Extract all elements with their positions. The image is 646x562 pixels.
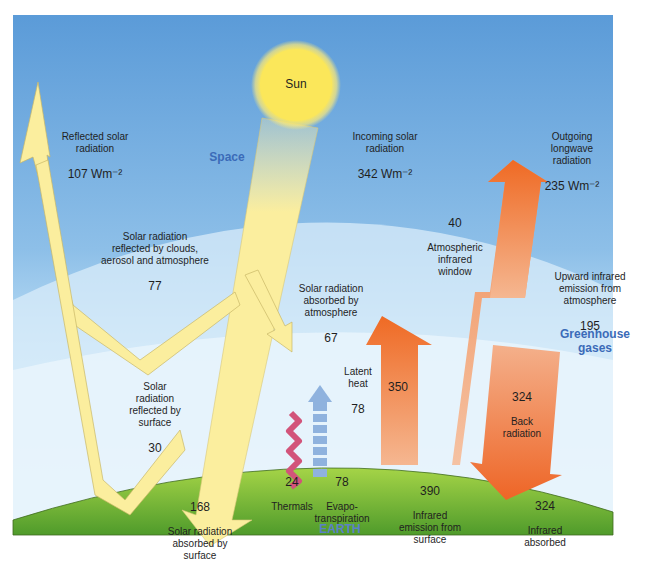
reflected-clouds-value: 77 bbox=[148, 279, 161, 293]
reflected-clouds-label: Solar radiation reflected by clouds, aer… bbox=[95, 219, 215, 293]
outgoing-longwave-label: Outgoing longwave radiation 235 Wm⁻² bbox=[532, 119, 612, 193]
reflected-solar-text: Reflected solar radiation bbox=[62, 131, 129, 154]
back-radiation-label: 324 Back radiation bbox=[487, 378, 557, 440]
ir-surface-text: Infrared emission from surface bbox=[399, 510, 461, 545]
upward-ir-atmosphere-label: Upward infrared emission from atmosphere… bbox=[540, 259, 640, 333]
region-space: Space bbox=[197, 151, 257, 163]
back-radiation-value: 324 bbox=[512, 390, 532, 404]
latent-heat-text: Latent heat bbox=[344, 366, 372, 389]
thermals-value: 24 bbox=[285, 475, 298, 489]
reflected-surface-text: Solar radiation reflected by surface bbox=[129, 381, 181, 428]
upward-ir-atmosphere-text: Upward infrared emission from atmosphere bbox=[554, 271, 625, 306]
ir-absorbed-value: 324 bbox=[535, 499, 555, 513]
latent-heat-label: Latent heat 78 bbox=[333, 354, 383, 416]
ir-absorbed-label: 324 Infrared absorbed bbox=[510, 487, 580, 549]
reflected-surface-label: Solar radiation reflected by surface 30 bbox=[115, 369, 195, 455]
outgoing-longwave-text: Outgoing longwave radiation bbox=[551, 131, 593, 166]
reflected-surface-value: 30 bbox=[148, 441, 161, 455]
absorbed-surface-label: 168 Solar radiation absorbed by surface bbox=[150, 488, 250, 562]
incoming-solar-label: Incoming solar radiation 342 Wm⁻² bbox=[340, 119, 430, 181]
latent-heat-value: 78 bbox=[351, 402, 364, 416]
atmospheric-window-label: 40 Atmospheric infrared window bbox=[415, 204, 495, 278]
ir-surface-value: 390 bbox=[420, 484, 440, 498]
atmospheric-window-value: 40 bbox=[448, 216, 461, 230]
reflected-solar-value: 107 Wm⁻² bbox=[68, 167, 123, 181]
absorbed-atmosphere-label: Solar radiation absorbed by atmosphere 6… bbox=[281, 271, 381, 345]
back-radiation-text: Back radiation bbox=[503, 416, 541, 439]
evapotranspiration-label: 78 Evapo- transpiration bbox=[302, 463, 382, 525]
absorbed-surface-value: 168 bbox=[190, 500, 210, 514]
absorbed-atmosphere-value: 67 bbox=[324, 331, 337, 345]
incoming-solar-value: 342 Wm⁻² bbox=[358, 167, 413, 181]
incoming-solar-text: Incoming solar radiation bbox=[352, 131, 417, 154]
reflected-solar-label: Reflected solar radiation 107 Wm⁻² bbox=[50, 119, 140, 181]
outgoing-longwave-value: 235 Wm⁻² bbox=[545, 179, 600, 193]
evapotranspiration-text: Evapo- transpiration bbox=[314, 501, 369, 524]
evapotranspiration-value: 78 bbox=[335, 475, 348, 489]
ir-absorbed-text: Infrared absorbed bbox=[524, 525, 566, 548]
absorbed-surface-text: Solar radiation absorbed by surface bbox=[168, 526, 232, 561]
reflected-clouds-text: Solar radiation reflected by clouds, aer… bbox=[101, 231, 209, 266]
absorbed-atmosphere-text: Solar radiation absorbed by atmosphere bbox=[299, 283, 363, 318]
sun-label: Sun bbox=[276, 78, 316, 90]
upward-ir-atmosphere-value: 195 bbox=[580, 319, 600, 333]
atmospheric-window-text: Atmospheric infrared window bbox=[427, 242, 483, 277]
ir-surface-label: 390 Infrared emission from surface bbox=[380, 472, 480, 546]
ir-350-value: 350 bbox=[378, 381, 418, 393]
